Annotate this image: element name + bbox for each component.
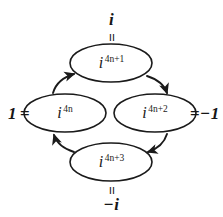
node-label-right: i4n+2 xyxy=(114,105,196,121)
node-top-base: i xyxy=(99,54,103,71)
arrow-bottom-to-left xyxy=(54,135,74,152)
node-right-exponent: 4n+2 xyxy=(148,104,168,114)
equals-sign-left: = xyxy=(20,105,30,122)
value-label-right: −1 xyxy=(200,105,220,122)
node-label-left: i4n xyxy=(24,105,106,121)
arrow-right-to-bottom xyxy=(148,134,167,152)
node-bottom-base: i xyxy=(99,153,103,170)
equals-sign-right: = xyxy=(190,105,200,122)
node-left-exponent: 4n xyxy=(63,104,73,114)
node-right-base: i xyxy=(142,104,146,121)
value-label-left: 1 xyxy=(8,105,17,122)
arrow-left-to-top xyxy=(53,74,74,93)
node-left-base: i xyxy=(57,104,61,121)
diagram-canvas: i4n+1 i4n i4n+2 i4n+3 i = 1 = = −1 = −i xyxy=(0,0,223,217)
value-label-bottom: −i xyxy=(0,196,223,213)
arrow-top-to-right xyxy=(147,76,167,93)
